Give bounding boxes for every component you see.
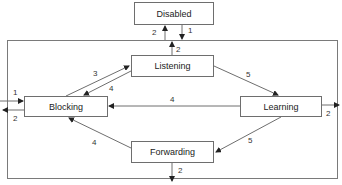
edge-label: 3 xyxy=(93,70,97,78)
edge-forwarding-to-blocking xyxy=(69,118,131,148)
edge-label: 2 xyxy=(326,110,330,118)
state-label: Disabled xyxy=(156,9,191,19)
edge-label: 4 xyxy=(170,96,174,104)
edge-label: 5 xyxy=(246,71,250,79)
edge-label: 2 xyxy=(176,46,180,54)
state-label: Listening xyxy=(154,61,190,71)
state-label: Forwarding xyxy=(150,147,195,157)
edge-label: 4 xyxy=(109,85,113,93)
edge-learning-to-forwarding xyxy=(216,117,281,152)
state-blocking: Blocking xyxy=(24,96,108,117)
edge-label: 1 xyxy=(188,27,192,35)
edge-blocking-to-listening xyxy=(66,66,129,96)
edge-label: 4 xyxy=(92,139,96,147)
edge-label: 5 xyxy=(248,137,252,145)
edge-label: 2 xyxy=(152,29,156,37)
state-label: Learning xyxy=(263,102,298,112)
state-label: Blocking xyxy=(49,102,83,112)
edge-label: 1 xyxy=(13,89,17,97)
edge-label: 2 xyxy=(178,167,182,175)
state-disabled: Disabled xyxy=(134,2,214,25)
state-forwarding: Forwarding xyxy=(131,141,214,163)
state-learning: Learning xyxy=(240,96,322,117)
state-listening: Listening xyxy=(131,55,214,77)
edge-listening-to-blocking xyxy=(84,71,131,95)
edge-label: 2 xyxy=(13,115,17,123)
